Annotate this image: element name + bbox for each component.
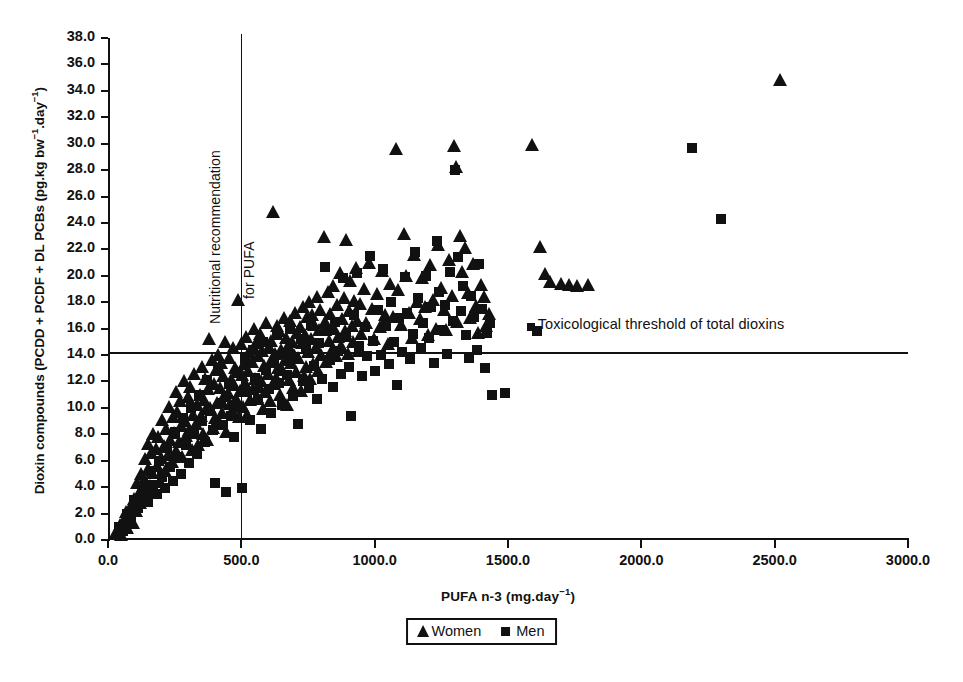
data-point-men [344, 362, 354, 372]
x-axis-tick: 0.0 [107, 540, 109, 548]
data-point-women [397, 227, 411, 240]
data-point-women [217, 389, 231, 402]
data-point-men [184, 458, 194, 468]
data-point-men [160, 483, 170, 493]
data-point-women [359, 316, 373, 329]
data-point-women [155, 413, 169, 426]
x-axis-tick-label: 1000.0 [352, 552, 396, 568]
data-point-men [186, 403, 196, 413]
legend-item-men[interactable]: Men [501, 623, 544, 639]
data-point-men [453, 252, 463, 262]
x-axis-tick: 1500.0 [507, 540, 509, 548]
data-point-women [191, 438, 205, 451]
data-point-women [327, 322, 341, 335]
data-point-women [312, 323, 326, 336]
data-point-women [313, 303, 327, 316]
data-point-men [301, 342, 311, 352]
data-point-women [282, 373, 296, 386]
data-point-women [207, 377, 221, 390]
data-point-men [424, 333, 434, 343]
data-point-men [200, 437, 210, 447]
x-axis-title-sup: −1 [559, 586, 570, 597]
data-point-women [326, 279, 340, 292]
data-point-women [269, 371, 283, 384]
data-point-men [402, 308, 412, 318]
data-point-women [407, 248, 421, 261]
data-point-women [119, 505, 133, 518]
data-point-women [293, 320, 307, 333]
data-point-men [126, 517, 136, 527]
data-point-women [266, 205, 280, 218]
data-point-women [298, 328, 312, 341]
data-point-men [224, 379, 234, 389]
data-point-men [261, 365, 271, 375]
data-point-women [271, 361, 285, 374]
data-point-women [257, 359, 271, 372]
data-point-men [330, 317, 340, 327]
data-point-women [187, 367, 201, 380]
toxicological-threshold-label: Toxicological threshold of total dioxins [538, 316, 785, 332]
data-point-women [157, 439, 171, 452]
data-point-women [303, 372, 317, 385]
data-point-women [240, 408, 254, 421]
data-point-men [687, 143, 697, 153]
data-point-women [151, 430, 165, 443]
data-point-women [307, 318, 321, 331]
data-point-women [458, 241, 472, 254]
data-point-men [162, 443, 172, 453]
data-point-women [199, 402, 213, 415]
data-point-women [245, 355, 259, 368]
square-marker-icon [501, 627, 510, 636]
data-point-men [173, 452, 183, 462]
data-point-women [383, 277, 397, 290]
data-point-women [463, 311, 477, 324]
data-point-women [570, 279, 584, 292]
data-point-women [169, 444, 183, 457]
data-point-women [190, 398, 204, 411]
data-point-men [170, 427, 180, 437]
data-point-women [304, 332, 318, 345]
data-point-women [241, 364, 255, 377]
data-point-women [445, 289, 459, 302]
data-point-men [290, 353, 300, 363]
data-point-men [450, 165, 460, 175]
y-axis-tick: 24.0 [101, 222, 108, 224]
data-point-men [384, 359, 394, 369]
data-point-women [182, 423, 196, 436]
triangle-marker-icon [417, 625, 429, 637]
data-point-women [305, 308, 319, 321]
data-point-men [202, 375, 212, 385]
data-point-women [163, 433, 177, 446]
y-axis-tick-label: 18.0 [67, 292, 95, 308]
data-point-women [342, 304, 356, 317]
data-point-women [218, 335, 232, 348]
data-point-men [309, 361, 319, 371]
data-point-women [426, 293, 440, 306]
data-point-men [250, 373, 260, 383]
legend-item-women[interactable]: Women [417, 623, 482, 639]
data-point-women [538, 267, 552, 280]
data-point-women [117, 513, 131, 526]
x-axis-title: PUFA n-3 (mg.day−1) [108, 586, 908, 604]
data-point-men [336, 369, 346, 379]
data-point-women [300, 310, 314, 323]
data-point-men [500, 388, 510, 398]
y-axis-tick-label: 32.0 [67, 107, 95, 123]
data-point-men [368, 336, 378, 346]
y-axis-tick-label: 0.0 [75, 530, 95, 546]
data-point-women [331, 330, 345, 343]
data-point-women [149, 442, 163, 455]
y-axis-tick-label: 10.0 [67, 398, 95, 414]
data-point-men [178, 413, 188, 423]
data-point-women [159, 422, 173, 435]
data-point-men [408, 329, 418, 339]
data-point-women [243, 393, 257, 406]
data-point-women [286, 381, 300, 394]
data-point-men [274, 378, 284, 388]
data-point-women [247, 322, 261, 335]
data-point-men [373, 305, 383, 315]
data-point-men [413, 293, 423, 303]
data-point-women [399, 269, 413, 282]
x-axis-tick: 3000.0 [907, 540, 909, 548]
data-point-women [297, 369, 311, 382]
